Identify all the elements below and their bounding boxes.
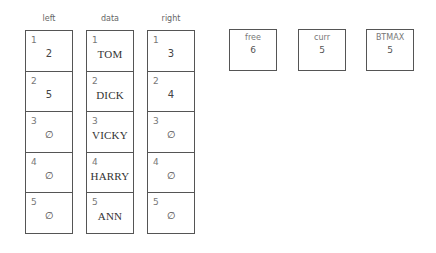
data-array: data 1TOM 2DICK 3VICKY 4HARRY 5ANN: [86, 30, 134, 234]
cell-index: 4: [92, 157, 98, 167]
cell-index: 1: [92, 35, 98, 45]
cell-index: 3: [31, 116, 37, 126]
cell-index: 1: [153, 35, 159, 45]
curr-box: curr 5: [298, 29, 346, 71]
data-array-label: data: [86, 14, 134, 23]
cell-index: 5: [153, 197, 159, 207]
cell-index: 3: [92, 116, 98, 126]
cell-value: ∅: [148, 170, 194, 181]
cell-value: TOM: [87, 48, 133, 60]
cell-index: 4: [31, 157, 37, 167]
cell-value: 2: [26, 48, 72, 59]
btmax-box: BTMAX 5: [366, 29, 414, 71]
cell-value: VICKY: [87, 129, 133, 141]
cell-value: ∅: [26, 170, 72, 181]
left-cell-4: 4∅: [26, 153, 72, 194]
right-cell-5: 5∅: [148, 193, 194, 234]
left-cell-1: 12: [26, 31, 72, 72]
right-array: right 13 24 3∅ 4∅ 5∅: [147, 30, 195, 234]
free-box: free 6: [229, 29, 277, 71]
btmax-label: BTMAX: [367, 33, 413, 42]
btmax-value: 5: [367, 45, 413, 55]
left-array: left 12 25 3∅ 4∅ 5∅: [25, 30, 73, 234]
data-cell-4: 4HARRY: [87, 153, 133, 194]
cell-index: 4: [153, 157, 159, 167]
cell-index: 5: [92, 197, 98, 207]
data-cell-5: 5ANN: [87, 193, 133, 234]
cell-value: 3: [148, 48, 194, 59]
cell-value: ∅: [148, 210, 194, 221]
right-cell-3: 3∅: [148, 112, 194, 153]
cell-value: 4: [148, 89, 194, 100]
left-cell-2: 25: [26, 72, 72, 113]
right-array-label: right: [147, 14, 195, 23]
left-array-label: left: [25, 14, 73, 23]
cell-value: ANN: [87, 210, 133, 222]
data-cell-3: 3VICKY: [87, 112, 133, 153]
right-cell-1: 13: [148, 31, 194, 72]
curr-label: curr: [299, 33, 345, 42]
cell-value: DICK: [87, 89, 133, 101]
cell-index: 2: [92, 76, 98, 86]
cell-value: ∅: [148, 129, 194, 140]
cell-index: 5: [31, 197, 37, 207]
cell-index: 2: [153, 76, 159, 86]
cell-value: ∅: [26, 210, 72, 221]
data-cell-1: 1TOM: [87, 31, 133, 72]
cell-index: 3: [153, 116, 159, 126]
left-cell-5: 5∅: [26, 193, 72, 234]
cell-index: 1: [31, 35, 37, 45]
cell-value: ∅: [26, 129, 72, 140]
free-value: 6: [230, 45, 276, 55]
cell-value: 5: [26, 89, 72, 100]
curr-value: 5: [299, 45, 345, 55]
right-cell-4: 4∅: [148, 153, 194, 194]
left-cell-3: 3∅: [26, 112, 72, 153]
free-label: free: [230, 33, 276, 42]
cell-index: 2: [31, 76, 37, 86]
cell-value: HARRY: [87, 170, 133, 182]
right-cell-2: 24: [148, 72, 194, 113]
data-cell-2: 2DICK: [87, 72, 133, 113]
